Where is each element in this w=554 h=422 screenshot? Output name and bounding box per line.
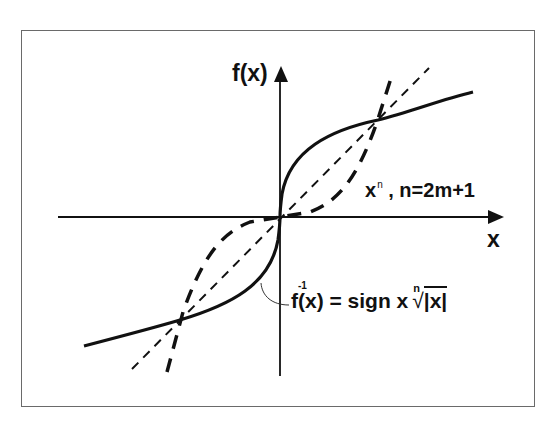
power-base: x	[365, 179, 376, 201]
power-condition: , n=2m+1	[383, 179, 475, 201]
label-leader-line	[261, 283, 289, 305]
root-index: n	[413, 283, 420, 294]
inverse-argument: (x) = sign x	[298, 289, 408, 312]
root-argument: |x|	[424, 286, 447, 312]
y-axis-label: f(x)	[232, 62, 268, 85]
plot-area	[0, 0, 554, 422]
inverse-superscript: -1	[298, 281, 307, 291]
inverse-function-label: f-1(x) = sign xn√|x|	[291, 290, 447, 311]
x-axis-label: x	[487, 228, 500, 251]
x-axis-arrow-icon	[488, 210, 504, 224]
power-function-label: xn , n=2m+1	[365, 180, 475, 200]
y-axis-arrow-icon	[274, 66, 288, 82]
inverse-f: f	[291, 289, 298, 312]
nth-root: n√|x|	[412, 290, 447, 311]
